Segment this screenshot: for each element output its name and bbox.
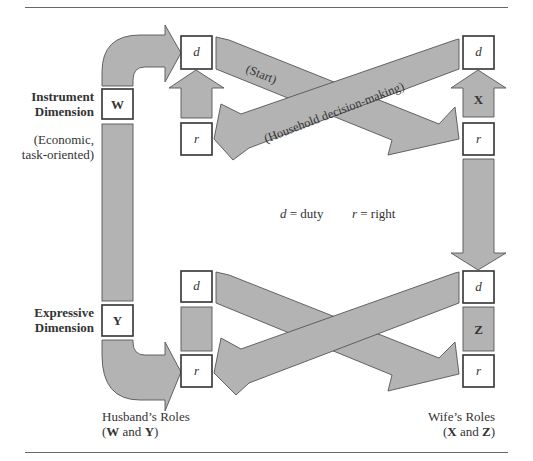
letter-z: Z <box>474 322 483 337</box>
instrument-line-1: Instrument <box>10 89 94 104</box>
wife-roles-label: Wife’s Roles (X and Z) <box>400 409 495 439</box>
instrument-note-line-2: task-oriented) <box>4 147 94 162</box>
letter-wife-top-duty: d <box>475 44 482 59</box>
wife-roles-line-2: (X and Z) <box>400 424 495 439</box>
letter-husband-bottom-duty: d <box>193 278 200 293</box>
legend: d = duty r = right <box>280 206 395 221</box>
instrument-note-line-1: (Economic, <box>4 132 94 147</box>
curved-arrow-y-to-right <box>102 340 181 411</box>
husband-vertical-bar <box>102 124 133 301</box>
husband-roles-line-1: Husband’s Roles <box>102 409 190 424</box>
up-arrow-husband-right-to-duty <box>169 70 224 118</box>
down-arrow-wife-right-to-duty <box>451 159 506 270</box>
expressive-dimension-label: Expressive Dimension <box>10 305 94 335</box>
instrument-note: (Economic, task-oriented) <box>4 132 94 162</box>
letter-w: W <box>111 97 124 112</box>
instrument-dimension-label: Instrument Dimension <box>10 89 94 119</box>
letter-x: X <box>474 92 484 107</box>
curved-arrow-w-to-duty <box>102 25 181 86</box>
expressive-line-2: Dimension <box>10 320 94 335</box>
letter-y: Y <box>113 313 123 328</box>
husband-roles-label: Husband’s Roles (W and Y) <box>102 409 190 439</box>
letter-husband-top-duty: d <box>193 44 200 59</box>
role-diagram: W Y X Z d r d r d r d r (Start) (Househo… <box>0 0 533 461</box>
husband-roles-line-2: (W and Y) <box>102 424 190 439</box>
expressive-line-1: Expressive <box>10 305 94 320</box>
legend-right-text: = right <box>357 206 395 221</box>
husband-middle-block <box>181 307 212 351</box>
legend-duty-text: = duty <box>287 206 324 221</box>
instrument-line-2: Dimension <box>10 104 94 119</box>
wife-roles-line-1: Wife’s Roles <box>400 409 495 424</box>
letter-wife-bottom-duty: d <box>475 279 482 294</box>
